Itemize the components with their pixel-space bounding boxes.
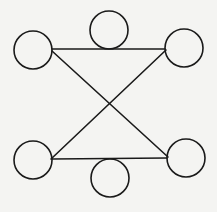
node-circle-bottom-left xyxy=(14,141,52,179)
node-circle-top-right xyxy=(165,29,203,67)
node-circle-bottom-center xyxy=(91,159,129,197)
network-diagram xyxy=(0,0,217,212)
node-circle-bottom-right xyxy=(167,139,205,177)
edges-group xyxy=(51,49,168,159)
node-circle-top-left xyxy=(14,31,52,69)
node-circle-top-center xyxy=(90,11,128,49)
